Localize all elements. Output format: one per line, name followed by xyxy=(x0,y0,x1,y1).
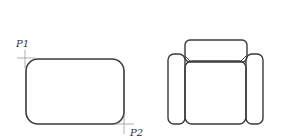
p2-label: P2 xyxy=(129,127,143,138)
armchair-seat xyxy=(185,61,246,124)
drawing-canvas: P1 P2 xyxy=(0,0,287,140)
armchair-left-arm xyxy=(168,54,185,124)
armchair-backrest xyxy=(185,40,247,62)
p1-crosshair-icon xyxy=(17,50,35,68)
p1-label: P1 xyxy=(15,38,29,49)
armchair-figure xyxy=(168,40,263,124)
rounded-rectangle-figure: P1 P2 xyxy=(15,38,143,138)
rounded-rectangle xyxy=(26,59,124,124)
armchair-right-arm xyxy=(246,54,263,124)
